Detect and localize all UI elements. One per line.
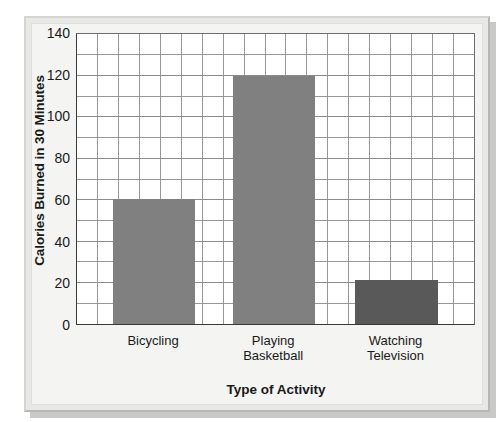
x-tick-label-line: Bicycling: [83, 333, 223, 348]
y-axis-tick-labels: 020406080100120140: [26, 33, 70, 325]
y-tick-label: 0: [30, 318, 70, 332]
x-axis-title: Type of Activity: [76, 382, 476, 397]
y-tick-label: 140: [30, 26, 70, 40]
x-tick-label: Bicycling: [83, 333, 223, 348]
x-tick-label: PlayingBasketball: [203, 333, 343, 363]
y-tick-label: 100: [30, 109, 70, 123]
x-axis-tick-labels: BicyclingPlayingBasketballWatchingTelevi…: [76, 333, 475, 381]
chart-figure: Calories Burned in 30 Minutes 0204060801…: [0, 0, 499, 422]
y-tick-label: 20: [30, 276, 70, 290]
x-tick-label-line: Basketball: [203, 348, 343, 363]
bar-1: [113, 199, 195, 324]
plot-area: [76, 33, 475, 325]
x-tick-label-line: Television: [326, 348, 466, 363]
y-tick-label: 60: [30, 193, 70, 207]
bar-3: [355, 280, 438, 324]
bar-series: [77, 34, 474, 324]
bar-2: [233, 76, 315, 324]
y-tick-label: 80: [30, 151, 70, 165]
x-tick-label-line: Watching: [326, 333, 466, 348]
x-tick-label: WatchingTelevision: [326, 333, 466, 363]
x-tick-label-line: Playing: [203, 333, 343, 348]
y-tick-label: 40: [30, 235, 70, 249]
y-tick-label: 120: [30, 68, 70, 82]
